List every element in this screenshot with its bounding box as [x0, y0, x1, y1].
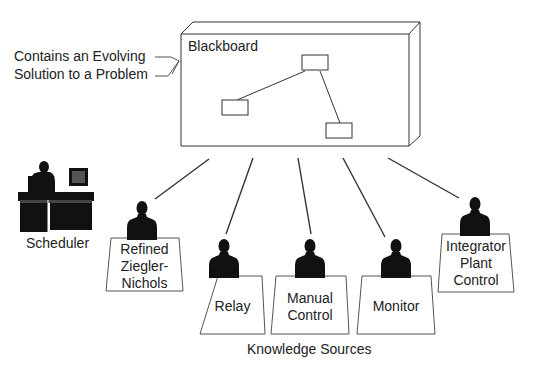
- ks-monitor: Monitor: [357, 298, 435, 315]
- annotation-text-line1: Contains an Evolving: [14, 48, 146, 65]
- scheduler-desk-icon: [18, 161, 94, 232]
- connector-lines: [155, 158, 459, 237]
- ks-relay: Relay: [200, 298, 265, 315]
- annotation-text-line2: Solution to a Problem: [14, 66, 148, 83]
- ks-manual-control: Manual Control: [271, 290, 349, 324]
- ks-integrator-plant-control: Integrator Plant Control: [438, 238, 514, 289]
- ks-refined-ziegler-nichols: Refined Ziegler- Nichols: [106, 241, 183, 292]
- knowledge-sources-caption: Knowledge Sources: [247, 341, 372, 358]
- scheduler-label: Scheduler: [26, 235, 89, 252]
- blackboard-label: Blackboard: [188, 38, 258, 55]
- annotation-arrow: [155, 57, 179, 76]
